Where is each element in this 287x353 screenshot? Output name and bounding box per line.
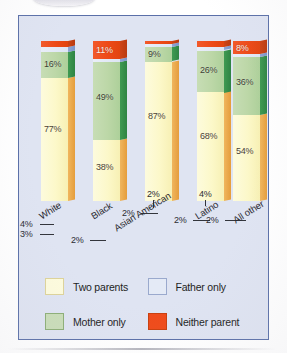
- legend-label-mother-only: Mother only: [73, 316, 126, 328]
- bar-side-face: [172, 60, 179, 201]
- category-label-white: White: [37, 199, 63, 221]
- segment-neither-parent: 8%: [233, 41, 260, 54]
- legend-item-two-parents[interactable]: Two parents: [45, 278, 148, 295]
- value-label-mother-only: 36%: [236, 77, 260, 87]
- segment-father-only: [233, 54, 260, 57]
- stacked-bar-asian-american[interactable]: 87% 9%: [145, 41, 172, 201]
- bar-side-face: [260, 113, 267, 201]
- category-axis-labels: White Black Asian American Latino All ot…: [19, 204, 268, 266]
- chart-legend: Two parents Father only Mother only Neit…: [45, 278, 250, 348]
- bar-side-face: [120, 60, 127, 140]
- segment-mother-only: 36%: [233, 57, 260, 115]
- segment-two-parents: 38%: [93, 140, 120, 201]
- bar-side-face: [224, 91, 231, 201]
- segment-mother-only: 26%: [197, 51, 224, 93]
- legend-label-father-only: Father only: [176, 281, 226, 293]
- value-label-two-parents: 38%: [96, 162, 120, 172]
- segment-neither-parent: [41, 41, 68, 47]
- segment-two-parents: 54%: [233, 115, 260, 201]
- stacked-bar-black[interactable]: 38% 49% 11%: [93, 41, 120, 201]
- bar-side-face: [68, 51, 75, 78]
- segment-neither-parent: [145, 41, 172, 44]
- stacked-bar-white[interactable]: 77% 16%: [41, 41, 68, 201]
- category-label-black: Black: [89, 200, 114, 221]
- legend-swatch-mother-only: [45, 313, 64, 330]
- scan-edge-artifact: [33, 0, 95, 6]
- legend-item-mother-only[interactable]: Mother only: [45, 313, 148, 330]
- page-rule: [8, 348, 276, 350]
- legend-label-neither-parent: Neither parent: [176, 316, 240, 328]
- value-label-two-parents: 87%: [148, 111, 172, 121]
- value-label-two-parents: 68%: [200, 131, 224, 141]
- value-label-mother-only: 16%: [44, 59, 68, 69]
- callout-neither-parent: 4%: [199, 189, 212, 199]
- bar-side-face: [68, 76, 75, 201]
- value-label-two-parents: 54%: [236, 146, 260, 156]
- segment-two-parents: 87%: [145, 62, 172, 201]
- legend-label-two-parents: Two parents: [73, 281, 128, 293]
- segment-mother-only: 16%: [41, 52, 68, 78]
- segment-mother-only: 49%: [93, 62, 120, 140]
- category-label-all-other: All other: [231, 198, 266, 225]
- value-label-mother-only: 26%: [200, 65, 224, 75]
- legend-item-father-only[interactable]: Father only: [148, 278, 251, 295]
- legend-swatch-two-parents: [45, 278, 64, 295]
- segment-two-parents: 77%: [41, 78, 68, 201]
- plot-area: 77% 16% 4% 3%: [19, 16, 268, 201]
- chart-panel: 77% 16% 4% 3%: [18, 15, 269, 340]
- segment-neither-parent: [197, 41, 224, 47]
- bar-side-face: [224, 49, 231, 92]
- segment-neither-parent: 11%: [93, 41, 120, 59]
- bar-side-face: [120, 40, 127, 59]
- segment-father-only: [197, 47, 224, 50]
- bar-side-face: [260, 56, 267, 115]
- legend-row: Mother only Neither parent: [45, 313, 250, 330]
- value-label-two-parents: 77%: [44, 124, 68, 134]
- segment-father-only: [41, 47, 68, 52]
- legend-swatch-neither-parent: [148, 313, 167, 330]
- legend-row: Two parents Father only: [45, 278, 250, 295]
- stacked-bar-all-other[interactable]: 54% 36% 8%: [233, 41, 260, 201]
- legend-item-neither-parent[interactable]: Neither parent: [148, 313, 251, 330]
- value-label-neither-parent: 11%: [96, 45, 120, 55]
- legend-swatch-father-only: [148, 278, 167, 295]
- value-label-mother-only: 49%: [96, 92, 120, 102]
- value-label-mother-only: 9%: [148, 49, 172, 59]
- value-label-neither-parent: 8%: [236, 43, 260, 53]
- segment-father-only: [93, 59, 120, 62]
- segment-mother-only: 9%: [145, 47, 172, 61]
- bar-side-face: [172, 46, 179, 62]
- category-label-latino: Latino: [193, 199, 220, 222]
- segment-two-parents: 68%: [197, 92, 224, 201]
- segment-father-only: [145, 44, 172, 47]
- bar-side-face: [120, 139, 127, 201]
- bar-side-face: [260, 40, 267, 54]
- stacked-bar-latino[interactable]: 68% 26%: [197, 41, 224, 201]
